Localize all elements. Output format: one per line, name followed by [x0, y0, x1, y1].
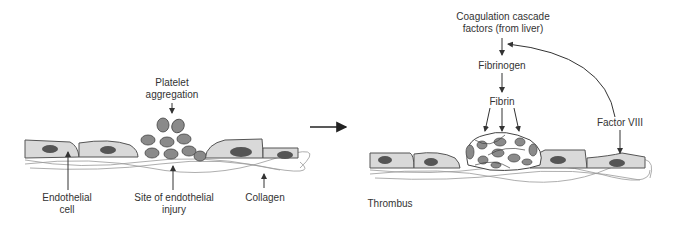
label-injury-site: Site of endothelial injury	[134, 192, 214, 216]
diagram-canvas	[0, 0, 675, 233]
thrombus	[466, 132, 541, 170]
arrow-fibrin-1	[485, 108, 490, 131]
label-endothelial-cell: Endothelial cell	[42, 192, 91, 216]
arrow-factor-viii-curve	[508, 44, 615, 117]
label-fibrinogen: Fibrinogen	[478, 60, 525, 72]
label-fibrin: Fibrin	[489, 96, 514, 108]
platelets	[141, 117, 206, 161]
label-coagulation-cascade: Coagulation cascade factors (from liver)	[456, 11, 549, 35]
arrow-fibrin-3	[514, 108, 519, 131]
label-thrombus: Thrombus	[367, 198, 412, 210]
label-factor-viii: Factor VIII	[597, 117, 643, 129]
left-panel	[25, 103, 310, 190]
label-collagen: Collagen	[245, 192, 284, 204]
label-platelet-aggregation: Platelet aggregation	[146, 77, 199, 101]
